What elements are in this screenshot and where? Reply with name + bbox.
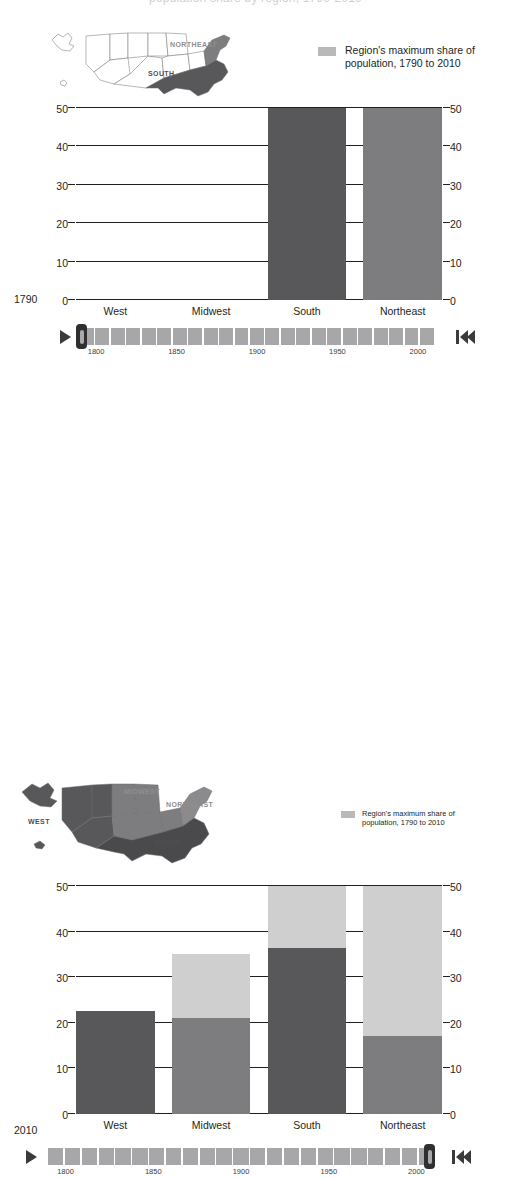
timeline-segment[interactable] bbox=[166, 1148, 181, 1165]
timeline-segment[interactable] bbox=[281, 328, 295, 345]
timeline-segment[interactable] bbox=[374, 328, 388, 345]
bar-current-midwest bbox=[172, 1018, 251, 1114]
tick-dash-right-50 bbox=[443, 107, 450, 108]
bar-west bbox=[76, 108, 155, 300]
timeline-segment[interactable] bbox=[385, 1148, 400, 1165]
timeline-segment[interactable] bbox=[200, 1148, 215, 1165]
timeline-segment[interactable] bbox=[183, 1148, 198, 1165]
category-label-west: West bbox=[76, 305, 155, 317]
clipped-headline: population share by region, 1790-2010 bbox=[0, 0, 511, 5]
play-icon[interactable] bbox=[26, 1150, 37, 1164]
timeline-control-1790[interactable]: 18001850190019502000 bbox=[0, 322, 511, 362]
timeline-segment[interactable] bbox=[250, 1148, 265, 1165]
timeline-track[interactable] bbox=[48, 1148, 434, 1165]
legend-line-2: population, 1790 to 2010 bbox=[362, 818, 445, 827]
timeline-year-axis: 18001850190019502000 bbox=[80, 347, 434, 359]
timeline-segment[interactable] bbox=[99, 1148, 114, 1165]
timeline-segment[interactable] bbox=[267, 1148, 282, 1165]
legend-line-1: Region's maximum share of bbox=[362, 809, 455, 818]
y-tick-left-30: 30 bbox=[56, 180, 68, 192]
skip-triangle-2 bbox=[463, 1150, 471, 1164]
timeline-segment[interactable] bbox=[219, 328, 233, 345]
category-label-south: South bbox=[268, 1119, 347, 1131]
timeline-year-1900: 1900 bbox=[249, 347, 266, 356]
timeline-segment[interactable] bbox=[327, 328, 341, 345]
timeline-segment[interactable] bbox=[265, 328, 279, 345]
timeline-segment[interactable] bbox=[284, 1148, 299, 1165]
y-tick-right-20: 20 bbox=[450, 1018, 462, 1030]
timeline-slider-handle[interactable] bbox=[424, 1144, 435, 1169]
timeline-segment[interactable] bbox=[216, 1148, 231, 1165]
timeline-year-1900: 1900 bbox=[233, 1167, 250, 1176]
timeline-segment[interactable] bbox=[318, 1148, 333, 1165]
timeline-segment[interactable] bbox=[235, 328, 249, 345]
bar-current-west bbox=[76, 1011, 155, 1114]
timeline-segment[interactable] bbox=[301, 1148, 316, 1165]
timeline-segment[interactable] bbox=[334, 1148, 349, 1165]
y-tick-left-50: 50 bbox=[56, 881, 68, 893]
panel-1790: population share by region, 1790-2010 bbox=[0, 0, 511, 365]
legend-text: Region's maximum share of population, 17… bbox=[362, 809, 492, 828]
us-regions-map-2010-icon: MIDWEST NORTHEAST WEST SOUTH bbox=[14, 776, 254, 868]
y-tick-right-0: 0 bbox=[450, 295, 456, 307]
timeline-segment[interactable] bbox=[157, 328, 171, 345]
tick-dash-left-40 bbox=[68, 145, 75, 146]
timeline-segment[interactable] bbox=[296, 328, 310, 345]
timeline-segment[interactable] bbox=[173, 328, 187, 345]
category-label-south: South bbox=[268, 305, 347, 317]
tick-dash-right-40 bbox=[443, 931, 450, 932]
timeline-segment[interactable] bbox=[149, 1148, 164, 1165]
timeline-segment[interactable] bbox=[351, 1148, 366, 1165]
timeline-year-1800: 1800 bbox=[57, 1167, 74, 1176]
timeline-segment[interactable] bbox=[368, 1148, 383, 1165]
timeline-segment[interactable] bbox=[343, 328, 357, 345]
tick-dash-right-10 bbox=[443, 1067, 450, 1068]
legend-swatch-icon bbox=[318, 47, 336, 56]
tick-dash-left-40 bbox=[68, 931, 75, 932]
timeline-segment[interactable] bbox=[250, 328, 264, 345]
map-label-northeast: NORTHEAST bbox=[170, 41, 217, 48]
timeline-segment[interactable] bbox=[233, 1148, 248, 1165]
tick-dash-right-30 bbox=[443, 184, 450, 185]
timeline-segment[interactable] bbox=[142, 328, 156, 345]
y-tick-left-10: 10 bbox=[56, 1063, 68, 1075]
timeline-segment[interactable] bbox=[188, 328, 202, 345]
play-icon[interactable] bbox=[60, 330, 71, 344]
timeline-segment[interactable] bbox=[126, 328, 140, 345]
timeline-segment[interactable] bbox=[115, 1148, 130, 1165]
timeline-segment[interactable] bbox=[312, 328, 326, 345]
legend-line-2: population, 1790 to 2010 bbox=[345, 57, 461, 69]
legend-line-1: Region's maximum share of bbox=[345, 44, 475, 56]
timeline-segment[interactable] bbox=[65, 1148, 80, 1165]
timeline-segment[interactable] bbox=[132, 1148, 147, 1165]
timeline-control-2010[interactable]: 18001850190019502000 bbox=[0, 1142, 511, 1178]
timeline-segment[interactable] bbox=[405, 328, 419, 345]
y-tick-left-0: 0 bbox=[62, 1109, 68, 1121]
panel-2010: MIDWEST NORTHEAST WEST SOUTH Region's ma… bbox=[0, 380, 511, 807]
timeline-segment[interactable] bbox=[402, 1148, 417, 1165]
skip-bar bbox=[452, 1150, 455, 1164]
y-tick-right-20: 20 bbox=[450, 218, 462, 230]
timeline-track[interactable] bbox=[80, 328, 434, 345]
tick-dash-left-30 bbox=[68, 976, 75, 977]
timeline-segment[interactable] bbox=[111, 328, 125, 345]
tick-dash-left-20 bbox=[68, 222, 75, 223]
skip-to-start-icon[interactable] bbox=[452, 1148, 471, 1165]
tick-dash-left-10 bbox=[68, 1067, 75, 1068]
timeline-segment[interactable] bbox=[48, 1148, 63, 1165]
timeline-segment[interactable] bbox=[82, 1148, 97, 1165]
tick-dash-right-40 bbox=[443, 145, 450, 146]
timeline-segment[interactable] bbox=[95, 328, 109, 345]
timeline-segment[interactable] bbox=[420, 328, 434, 345]
timeline-slider-handle[interactable] bbox=[76, 324, 87, 349]
bar-midwest bbox=[172, 886, 251, 1114]
y-tick-right-10: 10 bbox=[450, 1063, 462, 1075]
bar-midwest bbox=[172, 108, 251, 300]
timeline-segment[interactable] bbox=[389, 328, 403, 345]
skip-to-start-icon[interactable] bbox=[456, 328, 475, 345]
tick-dash-left-50 bbox=[68, 107, 75, 108]
timeline-segment[interactable] bbox=[204, 328, 218, 345]
tick-dash-left-30 bbox=[68, 184, 75, 185]
bar-chart-1790: 0010102020303040405050 WestMidwestSouthN… bbox=[76, 108, 442, 300]
timeline-segment[interactable] bbox=[358, 328, 372, 345]
